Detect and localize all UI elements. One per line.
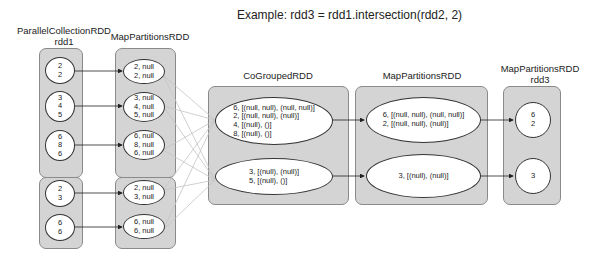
rdd1-partition-1: 3 4 5 [45,91,75,122]
partition-text: 2, null 2, null [134,63,154,80]
shuffle-lines [163,75,215,230]
partition-text: 3 4 5 [58,94,62,120]
partition-text: 2 3 [58,185,62,202]
partition-text: 6 6 [58,219,62,236]
partition-text: 3, [(null), (null)] 5, [(null), ()] [249,168,299,185]
rdd2-partition-0: 2 3 [45,180,75,207]
partition-text: 2 2 [58,62,62,79]
map1-partition-2: 6, null 8, null 6, null [123,130,165,160]
partition-text: 6 8 6 [58,133,62,159]
rdd3-partition-1: 3 [515,158,551,194]
rdd3-partition-0: 6 2 [515,102,551,138]
partition-text: 6, [(null, null), (null, null)] 2, [(nul… [233,104,315,138]
partition-text: 3, null 4, null 5, null [134,94,154,120]
map1-partition-1: 3, null 4, null 5, null [123,92,165,122]
map1-partition-4: 6, null 6, null [123,214,165,239]
map1-partition-0: 2, null 2, null [123,59,165,84]
partition-text: 3, [(null), (null)] [398,172,448,181]
rdd1-partition-2: 6 8 6 [45,130,75,161]
partition-text: 6 2 [531,111,535,128]
map1-partition-3: 2, null 3, null [123,180,165,205]
cogrouped-partition-0: 6, [(null, null), (null, null)] 2, [(nul… [215,97,333,145]
partition-text: 6, null 8, null 6, null [134,132,154,158]
partition-text: 3 [531,172,535,181]
cogrouped-partition-1: 3, [(null), (null)] 5, [(null), ()] [215,158,333,195]
partition-text: 6, [(null, null), (null, null)] 2, [(nul… [383,111,465,128]
rdd2-partition-1: 6 6 [45,214,75,241]
map2-partition-1: 3, [(null), (null)] [366,154,481,198]
map2-partition-0: 6, [(null, null), (null, null)] 2, [(nul… [366,97,481,143]
rdd1-partition-0: 2 2 [45,57,75,84]
partition-text: 6, null 6, null [134,218,154,235]
partition-text: 2, null 3, null [134,184,154,201]
